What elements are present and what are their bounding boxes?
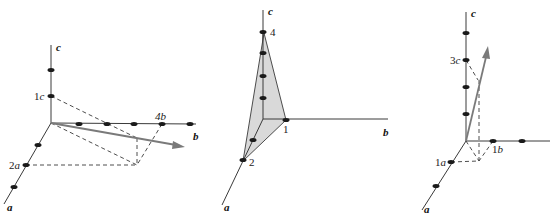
b-axis-label: b <box>193 130 199 142</box>
lattice-point <box>250 138 257 142</box>
lattice-point <box>260 96 267 100</box>
intercept-label-2: 2 <box>249 156 255 168</box>
a-axis-label: a <box>224 201 230 213</box>
lattice-point <box>519 139 526 143</box>
lattice-point <box>463 31 470 35</box>
dashed-line <box>466 60 478 80</box>
lattice-point <box>283 118 290 122</box>
c-axis-label: c <box>56 41 61 53</box>
lattice-point <box>260 51 267 55</box>
arrowhead-icon <box>482 46 490 59</box>
lattice-point <box>463 112 470 116</box>
lattice-point <box>240 158 247 162</box>
a-axis <box>422 141 466 210</box>
dashed-line <box>51 123 137 165</box>
lattice-point <box>76 122 83 126</box>
a-axis-label: a <box>424 203 430 215</box>
intercept-label-1b: 1b <box>492 143 504 155</box>
direction-vector <box>51 123 176 145</box>
lattice-point <box>11 185 18 189</box>
intercept-label-1a: 1a <box>435 156 447 168</box>
diagram-3: c a 3c 1a 1b <box>422 7 550 215</box>
dashed-line <box>451 161 479 162</box>
diagram-1: c b a 1c 2a 4b <box>4 41 199 213</box>
a-axis-label: a <box>7 201 13 213</box>
lattice-point <box>433 184 440 188</box>
intercept-label-1c: 1c <box>34 90 45 102</box>
intercept-label-2a: 2a <box>9 159 21 171</box>
lattice-point <box>448 160 455 164</box>
lattice-point <box>48 68 55 72</box>
intercept-label-1: 1 <box>283 123 289 135</box>
lattice-point <box>260 30 267 34</box>
c-axis-label: c <box>471 7 476 19</box>
intercept-label-4b: 4b <box>155 110 167 122</box>
lattice-point <box>187 122 194 126</box>
dashed-line <box>137 124 162 165</box>
lattice-point <box>35 143 42 147</box>
lattice-point <box>23 163 30 167</box>
lattice-point <box>131 122 138 126</box>
lattice-point <box>260 74 267 78</box>
lattice-point <box>159 122 166 126</box>
lattice-point <box>48 94 55 98</box>
intercept-label-4: 4 <box>270 26 276 38</box>
lattice-point <box>463 85 470 89</box>
crystal-axes-figure: c b a 1c 2a 4b c b a 4 1 2 <box>0 0 550 219</box>
lattice-point <box>104 122 111 126</box>
lattice-point <box>463 58 470 62</box>
dashed-line <box>51 96 137 138</box>
b-axis-label: b <box>383 126 389 138</box>
dashed-line <box>466 141 479 161</box>
direction-vector <box>466 57 486 141</box>
intercept-label-3c: 3c <box>450 54 461 66</box>
diagram-2: c b a 4 1 2 <box>222 5 389 213</box>
b-axis <box>51 123 196 124</box>
dashed-line <box>479 141 493 161</box>
c-axis-label: c <box>268 5 273 17</box>
arrowhead-icon <box>172 141 185 149</box>
